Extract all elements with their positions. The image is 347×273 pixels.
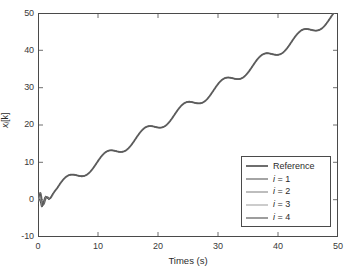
legend-line-swatch	[245, 186, 269, 197]
x-tick-label: 0	[23, 242, 53, 251]
x-axis-tick-labels: 0 10 20 30 40 50	[0, 242, 347, 254]
legend-item: Reference	[245, 160, 326, 173]
y-tick-label: -10	[4, 232, 34, 241]
legend-label: i = 4	[269, 212, 326, 223]
legend-line-swatch	[245, 174, 269, 185]
legend-line-swatch	[245, 212, 269, 223]
y-axis-title-tail: [k]	[0, 113, 10, 123]
x-tick-label: 40	[263, 242, 293, 251]
x-tick-label: 30	[203, 242, 233, 251]
y-tick-label: 50	[4, 9, 34, 18]
y-tick-label: 40	[4, 46, 34, 55]
chart-figure: 50 40 30 20 10 0 -10 xi[k]	[0, 0, 347, 273]
legend-label: i = 3	[269, 199, 326, 210]
chart-legend: Reference i = 1 i = 2 i = 3 i = 4	[241, 156, 331, 227]
x-tick-label: 10	[83, 242, 113, 251]
y-tick-label: 30	[4, 83, 34, 92]
legend-line-swatch	[245, 161, 269, 172]
y-axis-title-base: x	[0, 123, 10, 128]
x-tick-label: 50	[323, 242, 347, 251]
legend-label: i = 2	[269, 186, 326, 197]
legend-line-swatch	[245, 199, 269, 210]
y-tick-label: 0	[4, 195, 34, 204]
y-axis-title: xi[k]	[1, 98, 12, 142]
x-tick-label: 20	[143, 242, 173, 251]
legend-label: Reference	[269, 161, 326, 172]
legend-item: i = 4	[245, 211, 326, 224]
y-tick-label: 10	[4, 158, 34, 167]
legend-item: i = 1	[245, 173, 326, 186]
legend-item: i = 3	[245, 198, 326, 211]
x-axis-title: Times (s)	[38, 256, 338, 266]
legend-label: i = 1	[269, 174, 326, 185]
legend-item: i = 2	[245, 186, 326, 199]
